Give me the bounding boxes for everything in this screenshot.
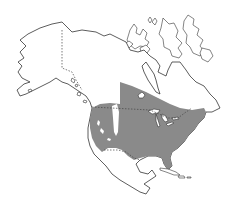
caribbean-islands	[160, 168, 191, 178]
north-america-range-map	[0, 0, 230, 209]
